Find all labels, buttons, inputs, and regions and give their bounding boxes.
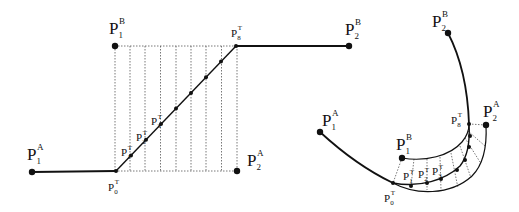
point-p1b — [112, 43, 118, 49]
point-p1b-bent — [399, 155, 405, 161]
point-p2a-bent — [483, 122, 489, 128]
label-p2a-bent: P2A — [483, 99, 500, 123]
label-p1t-bent: P1T — [403, 168, 415, 185]
label-p1b: P1B — [109, 16, 125, 40]
point-p2a — [234, 168, 240, 174]
label-p8t-bent: P8T — [451, 111, 463, 129]
point-p1a — [29, 169, 35, 175]
label-p0t: P0T — [108, 178, 120, 196]
label-p0t-bent: P0T — [384, 189, 396, 207]
segment-a — [32, 171, 116, 172]
label-p2b-bent: P2B — [432, 9, 448, 33]
curve-inner-edge — [402, 124, 469, 159]
label-p2t: P2T — [136, 129, 148, 146]
diagram-canvas: P1A P1B P2A P2B P0T P1T P2T P3T P8T — [0, 0, 519, 212]
label-p2a: P2A — [247, 148, 264, 172]
label-p1b-bent: P1B — [396, 132, 412, 156]
curve-a — [320, 132, 393, 183]
point-p2b — [346, 43, 352, 49]
label-p1a: P1A — [27, 142, 44, 166]
label-p2b: P2B — [345, 17, 361, 41]
left-solid-lines — [32, 46, 349, 172]
left-panel: P1A P1B P2A P2B P0T P1T P2T P3T P8T — [27, 16, 361, 196]
label-p1a-bent: P1A — [322, 108, 339, 132]
label-p2t-bent: P2T — [418, 166, 430, 183]
label-p8t: P8T — [231, 24, 243, 42]
left-endpoints — [29, 43, 352, 175]
label-p1t: P1T — [121, 144, 133, 161]
